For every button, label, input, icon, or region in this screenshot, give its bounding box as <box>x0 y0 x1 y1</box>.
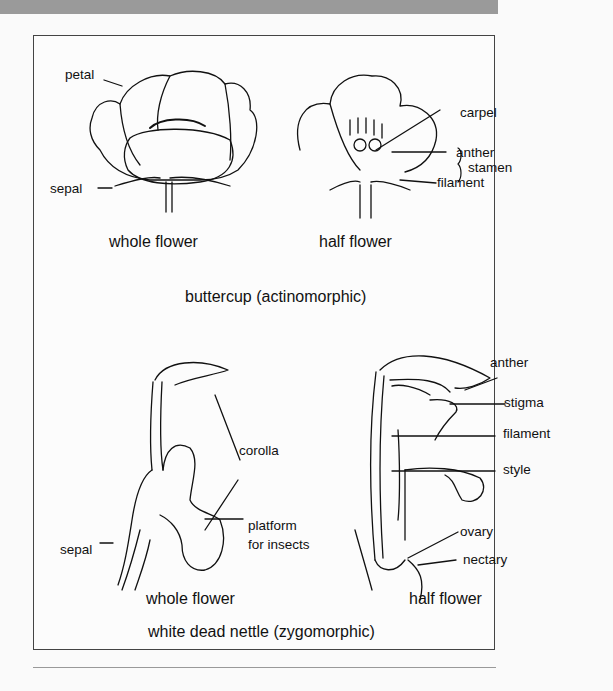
label-stigma: stigma <box>504 396 544 410</box>
label-platform: platform <box>248 519 297 533</box>
label-filament-nettle: filament <box>503 427 550 441</box>
buttercup-whole-flower-drawing <box>90 71 257 212</box>
label-petal: petal <box>65 68 94 82</box>
label-sepal-buttercup: sepal <box>50 182 82 196</box>
label-corolla: corolla <box>239 444 279 458</box>
caption-buttercup-whole-flower: whole flower <box>109 234 198 250</box>
caption-nettle-whole-flower: whole flower <box>146 591 235 607</box>
label-style: style <box>503 463 531 477</box>
label-sepal-nettle: sepal <box>60 543 92 557</box>
label-for-insects: for insects <box>248 538 310 552</box>
label-filament-buttercup: filament <box>437 176 484 190</box>
dead-nettle-title: white dead nettle (zygomorphic) <box>148 624 375 640</box>
label-anther-nettle: anther <box>490 356 528 370</box>
label-nectary: nectary <box>463 553 507 567</box>
label-anther-buttercup: anther <box>456 146 494 160</box>
caption-buttercup-half-flower: half flower <box>319 234 392 250</box>
label-carpel: carpel <box>460 106 497 120</box>
caption-nettle-half-flower: half flower <box>409 591 482 607</box>
dead-nettle-whole-flower-drawing <box>100 363 243 590</box>
label-ovary: ovary <box>460 525 493 539</box>
buttercup-title: buttercup (actinomorphic) <box>185 289 366 305</box>
buttercup-half-flower-drawing <box>298 75 461 218</box>
label-stamen: stamen <box>468 161 512 175</box>
flower-illustrations <box>0 0 613 691</box>
